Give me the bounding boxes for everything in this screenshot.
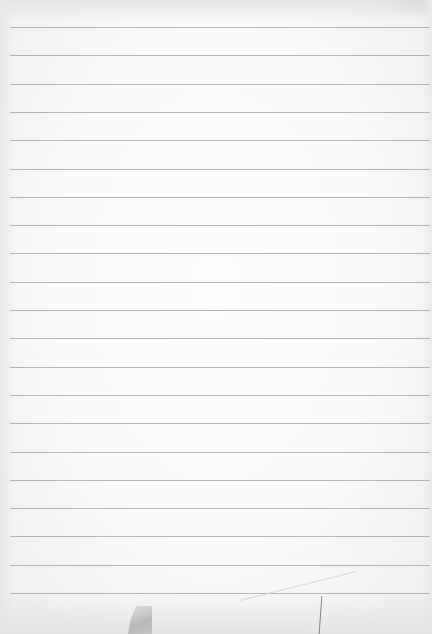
ruled-line [10,452,430,453]
right-edge-shadow [422,0,432,634]
ruled-line [10,84,430,85]
ruled-paper [0,0,432,634]
ruled-line [10,253,430,254]
ruled-line [10,508,430,509]
ruled-line [10,112,430,113]
ruled-line [10,338,430,339]
left-edge-shadow [0,0,14,634]
ruled-line [10,140,430,141]
bottom-edge-shadow [0,594,432,634]
ruled-line [10,536,430,537]
ruled-line [10,197,430,198]
ruled-line [10,310,430,311]
ruled-line [10,225,430,226]
ruled-line [10,27,430,28]
ruled-line [10,367,430,368]
ruled-line [10,395,430,396]
ruled-line [10,480,430,481]
ruled-line [10,282,430,283]
top-edge-shadow [0,0,432,22]
ruled-line [10,593,430,594]
ruled-line [10,55,430,56]
ruled-line [10,423,430,424]
ruled-line [10,169,430,170]
ruled-line [10,565,430,566]
